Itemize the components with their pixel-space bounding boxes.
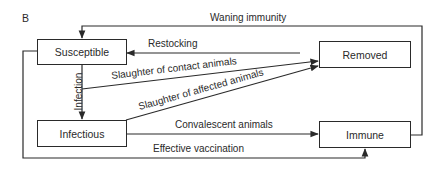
label-infection: Infection [73,73,84,111]
node-removed-label: Removed [343,49,388,61]
node-immune-label: Immune [346,129,384,141]
node-immune: Immune [319,121,411,148]
node-infectious: Infectious [37,120,127,147]
node-susceptible: Susceptible [37,39,127,65]
node-susceptible-label: Susceptible [55,46,109,58]
label-convalescent: Convalescent animals [175,119,273,130]
label-waning-immunity: Waning immunity [210,12,286,23]
label-restocking: Restocking [148,38,197,49]
node-infectious-label: Infectious [60,128,105,140]
node-removed: Removed [319,41,411,68]
label-effective-vaccination: Effective vaccination [153,143,244,154]
